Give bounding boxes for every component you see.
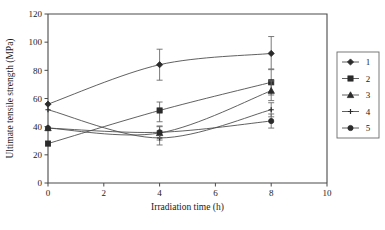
x-tick-label: 2 [102,188,107,198]
marker-square [348,76,353,81]
axis-spines [48,14,327,183]
marker-diamond [268,50,274,56]
ultimate-tensile-strength-line-chart: 0204060801001200246810Irradiation time (… [0,0,385,230]
x-tick-label: 8 [269,188,274,198]
x-axis-title: Irradiation time (h) [151,202,224,213]
marker-diamond [45,101,51,107]
marker-triangle [268,88,274,94]
y-tick-label: 40 [33,122,43,132]
marker-diamond [157,62,163,68]
marker-square [157,108,162,113]
y-tick-label: 20 [33,150,43,160]
legend-label-1[interactable]: 1 [366,57,371,67]
legend: 12345 [337,52,379,138]
marker-circle [269,118,274,123]
marker-square [45,141,50,146]
y-tick-label: 0 [38,178,43,188]
marker-circle [45,125,50,130]
chart-figure: 0204060801001200246810Irradiation time (… [0,0,385,230]
marker-cross [45,107,50,112]
marker-circle [348,125,353,130]
x-tick-label: 10 [323,188,333,198]
x-tick-label: 0 [46,188,51,198]
marker-circle [157,130,162,135]
axis-frame [48,14,327,183]
y-axis-title: Ultimate tensile strength (MPa) [5,38,16,158]
series-group-1 [45,37,274,108]
x-tick-label: 6 [213,188,218,198]
legend-label-5[interactable]: 5 [366,123,371,133]
marker-cross [269,107,274,112]
y-tick-label: 120 [29,9,43,19]
legend-label-2[interactable]: 2 [366,74,371,84]
y-tick-label: 100 [29,37,43,47]
legend-label-3[interactable]: 3 [366,90,371,100]
x-tick-label: 4 [157,188,162,198]
y-tick-label: 60 [33,94,43,104]
y-tick-label: 80 [33,66,43,76]
legend-label-4[interactable]: 4 [366,107,371,117]
